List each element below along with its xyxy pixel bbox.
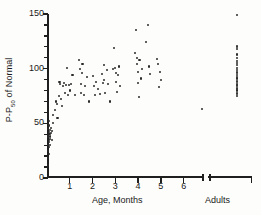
y-tick-mark-minor: [44, 101, 48, 102]
y-tick-mark: [43, 13, 48, 14]
x-tick-label: 1: [63, 181, 77, 191]
y-tick-mark-minor: [44, 35, 48, 36]
data-point: [114, 67, 116, 69]
data-point: [52, 114, 54, 116]
y-tick-mark-minor: [44, 57, 48, 58]
data-point: [54, 109, 56, 111]
x-tick-label: 2: [86, 181, 100, 191]
data-point: [236, 14, 238, 16]
y-tick-label: 150: [18, 9, 44, 18]
data-point: [50, 132, 52, 134]
x-tick-label: 6: [177, 181, 191, 191]
axis-break-mark: [209, 174, 211, 181]
y-tick-label: 50: [18, 118, 44, 127]
x-tick-label: 4: [131, 181, 145, 191]
data-point: [70, 83, 72, 85]
x-axis-segment-adults: [208, 176, 252, 178]
data-point: [95, 81, 97, 83]
scatter-plot-figure: P-P50 of Normal 150 100 50 0 123456 Age,…: [0, 0, 261, 215]
data-point: [147, 24, 149, 26]
data-point: [141, 68, 143, 70]
y-axis-label-suffix: of Normal: [4, 58, 14, 101]
data-point: [148, 65, 150, 67]
data-point: [48, 153, 50, 155]
data-point: [51, 130, 53, 132]
data-point: [107, 83, 109, 85]
x-tick-label: 5: [154, 181, 168, 191]
data-point: [74, 94, 76, 96]
data-point: [118, 65, 120, 67]
data-point: [47, 164, 49, 166]
data-point: [48, 141, 50, 143]
data-point: [97, 88, 99, 90]
y-axis-label-subscript: 50: [10, 100, 16, 107]
y-tick-mark: [43, 68, 48, 69]
data-point: [137, 82, 139, 84]
data-point: [101, 73, 103, 75]
data-point: [138, 96, 140, 98]
data-point: [48, 120, 50, 122]
y-tick-mark-minor: [44, 79, 48, 80]
data-point: [80, 83, 82, 85]
data-point: [64, 92, 66, 94]
y-tick-label: 100: [18, 64, 44, 73]
data-point: [60, 98, 62, 100]
data-point: [71, 74, 73, 76]
data-point: [62, 85, 64, 87]
data-point: [49, 144, 51, 146]
y-axis-tick-labels: 150 100 50 0: [18, 0, 44, 180]
data-point: [59, 83, 61, 85]
data-point: [159, 71, 161, 73]
data-point: [78, 59, 80, 61]
data-point: [49, 135, 51, 137]
data-point: [236, 95, 238, 97]
data-point: [81, 72, 83, 74]
x-axis-label: Age, Months: [92, 195, 143, 205]
data-point: [104, 92, 106, 94]
x-axis-tick-labels: 123456: [0, 181, 261, 193]
data-point: [140, 77, 142, 79]
data-point: [65, 84, 67, 86]
adults-group-label: Adults: [205, 195, 230, 205]
data-point: [158, 86, 160, 88]
data-point: [69, 89, 71, 91]
y-tick-mark-minor: [44, 90, 48, 91]
data-point: [50, 127, 52, 129]
x-tick-label: 3: [108, 181, 122, 191]
data-point: [80, 92, 82, 94]
data-point: [109, 100, 111, 102]
data-point: [106, 69, 108, 71]
y-tick-mark-minor: [44, 24, 48, 25]
data-point: [160, 79, 162, 81]
data-point: [52, 122, 54, 124]
data-point: [51, 139, 53, 141]
data-point: [67, 94, 69, 96]
data-point: [56, 117, 58, 119]
data-point: [157, 63, 159, 65]
y-axis-label-prefix: P-P: [4, 107, 14, 122]
data-point: [103, 64, 105, 66]
y-tick-mark-minor: [44, 46, 48, 47]
data-point: [201, 108, 203, 110]
data-point: [47, 150, 49, 152]
data-point: [88, 100, 90, 102]
data-point: [84, 85, 86, 87]
data-point: [137, 71, 139, 73]
data-point: [236, 57, 238, 59]
data-point: [58, 95, 60, 97]
data-point: [236, 48, 238, 50]
data-point: [92, 75, 94, 77]
data-point: [145, 41, 147, 43]
y-axis-label: P-P50 of Normal: [0, 0, 20, 180]
data-point: [236, 53, 238, 55]
data-point: [156, 58, 158, 60]
data-point: [138, 59, 140, 61]
data-point: [93, 85, 95, 87]
data-point: [116, 91, 118, 93]
data-point: [83, 94, 85, 96]
data-point: [56, 103, 58, 105]
data-point: [66, 67, 68, 69]
data-point: [103, 79, 105, 81]
plot-area: [47, 14, 252, 178]
data-point: [136, 63, 138, 65]
